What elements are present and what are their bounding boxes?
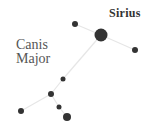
constellation-diagram: Sirius Canis Major [0,0,157,127]
constellation-stars [18,21,138,121]
constellation-name-line1: Canis [16,38,50,52]
constellation-name: Canis Major [16,38,50,66]
star-mid-star-icon [61,77,66,82]
connection-line [63,35,101,79]
sirius-star-icon [95,29,108,42]
sirius-label: Sirius [109,6,141,21]
star-hip-star-icon [48,91,54,97]
star-nw-star-icon [72,21,78,27]
star-s2-star-icon [63,113,71,121]
constellation-name-line2: Major [16,52,50,66]
star-e-star-icon [132,47,138,53]
connection-line [21,94,51,111]
star-sw-star-icon [18,108,24,114]
star-s1-star-icon [57,105,62,110]
